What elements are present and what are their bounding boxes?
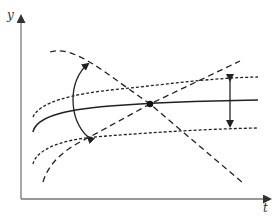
intersection-point — [147, 101, 153, 107]
diagram-canvas — [0, 0, 278, 216]
lower-dotted-curve — [33, 128, 258, 164]
decreasing-dashed-curve — [50, 51, 243, 183]
x-axis-label: t — [263, 201, 268, 215]
axes — [21, 16, 270, 199]
solid-curve — [33, 100, 258, 132]
curved-double-arrow — [73, 64, 88, 137]
y-axis-label: y — [7, 8, 14, 22]
